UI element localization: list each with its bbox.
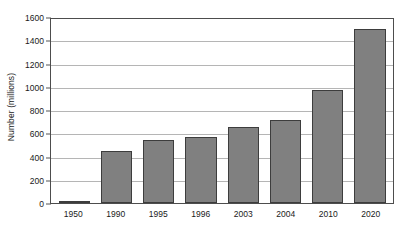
y-axis-tick-label: 200	[30, 176, 44, 185]
bar-group	[51, 19, 393, 203]
plot-area	[50, 18, 394, 204]
bar-slot	[95, 19, 137, 203]
bar-slot	[138, 19, 180, 203]
x-axis-tick-label: 1996	[180, 208, 223, 224]
bar[interactable]	[228, 127, 259, 203]
y-axis-tick-label: 800	[30, 107, 44, 116]
x-axis-tick-label: 1990	[95, 208, 138, 224]
x-axis-tick-label-group: 19501990199519962003200420102020	[50, 208, 394, 224]
bar-slot	[307, 19, 349, 203]
bar[interactable]	[59, 201, 90, 203]
bar[interactable]	[101, 151, 132, 203]
bar-chart-figure: Number (millions) 0200400600800100012001…	[0, 0, 414, 251]
bar[interactable]	[270, 120, 301, 203]
bar-slot	[53, 19, 95, 203]
y-axis-tick-label: 0	[39, 200, 44, 209]
x-axis-tick-label: 1950	[52, 208, 95, 224]
bar[interactable]	[143, 140, 174, 203]
bar[interactable]	[354, 29, 385, 203]
y-axis-tick-label: 1200	[25, 60, 44, 69]
y-axis-tick-label-group: 02004006008001000120014001600	[20, 18, 46, 204]
y-axis-tick-label: 1600	[25, 14, 44, 23]
x-axis-tick-label: 2010	[307, 208, 350, 224]
bar-slot	[264, 19, 306, 203]
x-axis-tick-label: 2020	[350, 208, 393, 224]
x-axis-tick-label: 1995	[137, 208, 180, 224]
bar[interactable]	[185, 137, 216, 203]
y-axis-tick-label: 600	[30, 130, 44, 139]
y-axis-tick-label: 1400	[25, 37, 44, 46]
x-axis-tick-label: 2003	[222, 208, 265, 224]
y-axis-tick-label: 1000	[25, 83, 44, 92]
bar-slot	[349, 19, 391, 203]
y-axis-title: Number (millions)	[0, 0, 22, 214]
x-axis-tick-label: 2004	[265, 208, 308, 224]
bar-slot	[180, 19, 222, 203]
y-axis-tick-label: 400	[30, 153, 44, 162]
bar-slot	[222, 19, 264, 203]
y-axis-title-label: Number (millions)	[6, 73, 16, 141]
bar[interactable]	[312, 90, 343, 203]
